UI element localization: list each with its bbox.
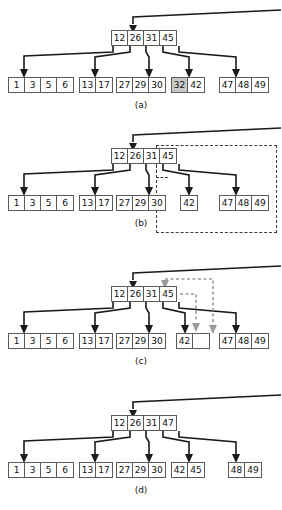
panel-c-leaf-5: 47 48 49 xyxy=(219,333,269,349)
leaf-cell: 27 xyxy=(117,196,133,210)
leaf-cell: 17 xyxy=(96,196,112,210)
leaf-cell: 42 xyxy=(188,78,204,92)
panel-c: 12 26 31 45 1 3 5 6 13 17 27 29 30 42 47… xyxy=(0,256,282,386)
panel-b-leaf-1: 1 3 5 6 xyxy=(8,195,74,211)
panel-b-leaf-5: 47 48 49 xyxy=(219,195,269,211)
leaf-cell: 3 xyxy=(25,463,41,477)
leaf-cell: 48 xyxy=(236,196,252,210)
panel-c-leaf-1: 1 3 5 6 xyxy=(8,333,74,349)
leaf-cell: 27 xyxy=(117,463,133,477)
panel-c-leaf-2: 13 17 xyxy=(79,333,113,349)
panel-d-caption: (d) xyxy=(0,485,282,495)
leaf-cell: 1 xyxy=(9,78,25,92)
panel-c-leaf-3: 27 29 30 xyxy=(116,333,166,349)
panel-d-root-node: 12 26 31 47 xyxy=(111,415,177,431)
leaf-cell: 42 xyxy=(172,463,188,477)
leaf-cell: 30 xyxy=(149,78,165,92)
panel-d-leaf-4: 42 45 xyxy=(171,462,205,478)
key-cell: 45 xyxy=(160,31,176,45)
leaf-cell: 49 xyxy=(252,78,268,92)
leaf-cell: 29 xyxy=(133,78,149,92)
leaf-cell: 13 xyxy=(80,78,96,92)
panel-b: 12 26 31 45 1 3 5 6 13 17 27 29 30 42 47… xyxy=(0,118,282,248)
key-cell: 26 xyxy=(128,287,144,301)
panel-a-leaf-4: 32 42 xyxy=(171,77,205,93)
leaf-cell: 27 xyxy=(117,334,133,348)
panel-c-leaf-4: 42 xyxy=(176,333,210,349)
leaf-cell: 6 xyxy=(57,196,73,210)
key-cell: 31 xyxy=(144,149,160,163)
key-cell: 12 xyxy=(112,31,128,45)
leaf-cell: 5 xyxy=(41,334,57,348)
leaf-cell: 3 xyxy=(25,78,41,92)
leaf-cell-empty xyxy=(193,334,209,348)
key-cell: 45 xyxy=(160,287,176,301)
leaf-cell: 6 xyxy=(57,334,73,348)
leaf-cell: 29 xyxy=(133,196,149,210)
leaf-cell: 48 xyxy=(236,78,252,92)
panel-a-leaf-3: 27 29 30 xyxy=(116,77,166,93)
leaf-cell: 47 xyxy=(220,196,236,210)
leaf-cell: 49 xyxy=(245,463,261,477)
leaf-cell-highlighted: 32 xyxy=(172,78,188,92)
leaf-cell: 5 xyxy=(41,196,57,210)
key-cell: 26 xyxy=(128,416,144,430)
key-cell: 12 xyxy=(112,149,128,163)
leaf-cell: 17 xyxy=(96,78,112,92)
leaf-cell: 47 xyxy=(220,78,236,92)
panel-d-leaf-1: 1 3 5 6 xyxy=(8,462,74,478)
panel-d-leaf-5: 48 49 xyxy=(228,462,262,478)
leaf-cell: 48 xyxy=(229,463,245,477)
leaf-cell: 17 xyxy=(96,334,112,348)
panel-a-caption: (a) xyxy=(0,100,282,110)
panel-a-leaf-5: 47 48 49 xyxy=(219,77,269,93)
leaf-cell: 42 xyxy=(177,334,193,348)
key-cell: 31 xyxy=(144,31,160,45)
panel-a-leaf-2: 13 17 xyxy=(79,77,113,93)
panel-d-leaf-3: 27 29 30 xyxy=(116,462,166,478)
leaf-cell: 13 xyxy=(80,196,96,210)
leaf-cell: 49 xyxy=(252,334,268,348)
key-cell: 26 xyxy=(128,149,144,163)
key-cell: 12 xyxy=(112,287,128,301)
panel-a-edges xyxy=(0,0,282,130)
panel-b-root-node: 12 26 31 45 xyxy=(111,148,177,164)
key-cell: 31 xyxy=(144,287,160,301)
leaf-cell: 3 xyxy=(25,196,41,210)
panel-b-leaf-4: 42 xyxy=(180,195,198,211)
leaf-cell: 1 xyxy=(9,463,25,477)
leaf-cell: 5 xyxy=(41,78,57,92)
leaf-cell: 3 xyxy=(25,334,41,348)
panel-c-caption: (c) xyxy=(0,356,282,366)
leaf-cell: 13 xyxy=(80,463,96,477)
leaf-cell: 30 xyxy=(149,196,165,210)
leaf-cell: 48 xyxy=(236,334,252,348)
leaf-cell: 17 xyxy=(96,463,112,477)
panel-c-root-node: 12 26 31 45 xyxy=(111,286,177,302)
panel-b-highlight-notch xyxy=(156,164,168,178)
key-cell: 47 xyxy=(160,416,176,430)
leaf-cell: 6 xyxy=(57,78,73,92)
leaf-cell: 47 xyxy=(220,334,236,348)
leaf-cell: 6 xyxy=(57,463,73,477)
leaf-cell: 5 xyxy=(41,463,57,477)
leaf-cell: 49 xyxy=(252,196,268,210)
leaf-cell: 29 xyxy=(133,463,149,477)
key-cell: 26 xyxy=(128,31,144,45)
panel-c-edges xyxy=(0,256,282,386)
key-cell: 12 xyxy=(112,416,128,430)
key-cell: 31 xyxy=(144,416,160,430)
key-cell: 45 xyxy=(160,149,176,163)
leaf-cell: 29 xyxy=(133,334,149,348)
leaf-cell: 30 xyxy=(149,334,165,348)
panel-d: 12 26 31 47 1 3 5 6 13 17 27 29 30 42 45… xyxy=(0,385,282,510)
leaf-cell: 45 xyxy=(188,463,204,477)
panel-d-leaf-2: 13 17 xyxy=(79,462,113,478)
leaf-cell: 30 xyxy=(149,463,165,477)
panel-b-leaf-3: 27 29 30 xyxy=(116,195,166,211)
panel-a: 12 26 31 45 1 3 5 6 13 17 27 29 30 32 42… xyxy=(0,0,282,128)
leaf-cell: 42 xyxy=(181,196,197,210)
leaf-cell: 27 xyxy=(117,78,133,92)
panel-b-caption: (b) xyxy=(0,218,282,228)
panel-a-root-node: 12 26 31 45 xyxy=(111,30,177,46)
